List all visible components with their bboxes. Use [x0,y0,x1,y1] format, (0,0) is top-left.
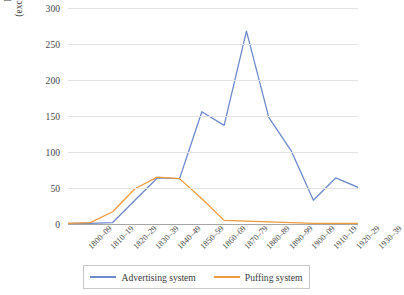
x-tick-label-8: 1880–89 [265,224,292,251]
x-tick-label-1: 1810–19 [109,224,136,251]
gridline-300 [68,8,358,9]
legend-label-0: Advertising system [121,272,195,283]
y-axis-title: Press publications (excluding advertisme… [2,0,26,52]
y-tick-label-50: 50 [50,183,60,194]
x-tick-label-3: 1830–39 [154,224,181,251]
gridline-50 [68,188,358,189]
y-axis-tick-labels: 050100150200250300 [26,8,64,224]
y-tick-label-300: 300 [46,3,60,14]
gridline-100 [68,152,358,153]
x-tick-label-11: 1910–19 [332,224,359,251]
legend-swatch-0 [90,276,116,278]
chart-legend: Advertising systemPuffing system [83,265,310,289]
x-tick-label-10: 1900–09 [310,224,337,251]
y-tick-label-100: 100 [46,147,60,158]
gridline-150 [68,116,358,117]
y-axis-title-line-1: Press publications [3,0,14,2]
x-tick-label-2: 1820–29 [131,224,158,251]
x-tick-label-7: 1870–79 [243,224,270,251]
x-tick-label-6: 1860–69 [220,224,247,251]
legend-entry-0[interactable]: Advertising system [90,272,195,283]
x-axis-tick-labels: 1800–091810–191820–291830–391840–491850–… [68,224,358,270]
y-tick-label-200: 200 [46,75,60,86]
y-axis-title-line-2: (excluding advertisments) [14,0,25,17]
x-tick-label-12: 1920–29 [354,224,381,251]
x-tick-label-4: 1840–49 [176,224,203,251]
gridline-200 [68,80,358,81]
y-tick-label-150: 150 [46,111,60,122]
x-tick-label-0: 1800–09 [87,224,114,251]
legend-entry-1[interactable]: Puffing system [214,272,303,283]
gridline-250 [68,44,358,45]
x-tick-label-13: 1930–39 [377,224,404,251]
gridlines [68,8,358,224]
x-tick-label-5: 1850–59 [198,224,225,251]
legend-label-1: Puffing system [245,272,303,283]
plot-area [68,8,358,224]
x-tick-label-9: 1890–99 [287,224,314,251]
y-tick-label-0: 0 [55,219,60,230]
y-tick-label-250: 250 [46,39,60,50]
legend-swatch-1 [214,276,240,278]
